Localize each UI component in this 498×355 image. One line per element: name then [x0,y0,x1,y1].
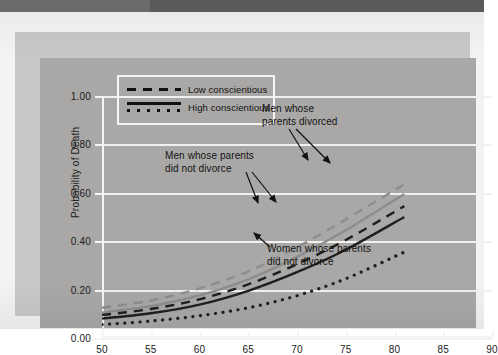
legend-item-low-conscientious: Low conscientious [127,82,267,96]
x-tick-label: 90 [486,344,498,355]
tick-y [95,338,102,340]
x-tick-label: 50 [96,344,108,355]
tick-y [95,144,102,146]
y-tick-label: 0.20 [71,284,91,295]
legend-swatch-solid-dotted-icon [127,101,181,113]
y-tick-label: 0.60 [71,187,91,198]
plot-panel: Probability of Death 0.000.200.400.600.8… [40,58,476,328]
x-tick-label: 60 [194,344,206,355]
annotation-men-parents-divorced: Men whose parents divorced [262,103,338,128]
legend-swatch-dashed-icon [127,83,181,95]
y-tick-label: 0.40 [71,236,91,247]
x-tick-label: 55 [145,344,157,355]
y-tick-label: 0.00 [71,333,91,344]
page-top-band-right [150,0,484,12]
y-tick-label: 1.00 [71,91,91,102]
annotation-men-parents-did-not-divorce: Men whose parents did not divorce [165,150,254,175]
tick-y [95,241,102,243]
x-tick-label: 75 [340,344,352,355]
legend-item-high-conscientious: High conscientious [127,100,270,114]
plot-area: 0.000.200.400.600.801.005055606570758085… [102,96,492,338]
tick-x [492,331,494,338]
tick-y [95,193,102,195]
legend: Low conscientious High conscientious [117,75,275,125]
y-tick-label: 0.80 [71,139,91,150]
x-tick-label: 70 [291,344,303,355]
x-tick-label: 80 [389,344,401,355]
tick-y [95,96,102,98]
series-curves [102,96,492,338]
tick-y [95,290,102,292]
x-tick-label: 65 [242,344,254,355]
gridline-y [102,338,492,340]
x-tick-label: 85 [437,344,449,355]
annotation-women-parents-did-not-divorce: Women whose parents did not divorce [267,243,371,268]
legend-label-low: Low conscientious [188,84,267,95]
legend-label-high: High conscientious [188,102,270,113]
